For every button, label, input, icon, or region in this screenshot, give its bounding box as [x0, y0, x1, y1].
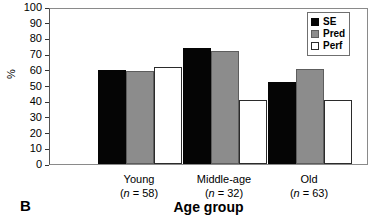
y-axis-tick-label: 90 [30, 17, 42, 29]
legend-swatch-se-icon [311, 18, 319, 26]
x-axis-group-label: Old(n = 63) [249, 172, 369, 200]
legend-swatch-perf-icon [311, 42, 319, 50]
x-axis-title: Age group [49, 199, 368, 215]
y-axis-tick-label: 40 [30, 95, 42, 107]
bar-pred-old [296, 69, 324, 164]
y-axis-tick-mark [45, 165, 49, 166]
y-axis-tick-label: 100 [24, 1, 42, 13]
y-axis-tick-label: 20 [30, 127, 42, 139]
y-axis-tick-mark [45, 8, 49, 9]
bar-se-old [268, 82, 296, 164]
y-axis-tick-label: 50 [30, 80, 42, 92]
bar-se-young [98, 70, 126, 164]
y-axis-tick-label: 10 [30, 142, 42, 154]
y-axis-tick-mark [45, 117, 49, 118]
legend-label-se: SE [323, 17, 336, 27]
bar-pred-young [126, 71, 154, 164]
y-axis-label: % [5, 65, 17, 83]
bar-perf-old [324, 100, 352, 164]
x-axis-group-name: Old [249, 172, 369, 186]
legend-item: Perf [311, 40, 345, 51]
x-axis-group-count: (n = 63) [249, 186, 369, 200]
bar-se-middle-age [183, 48, 211, 164]
y-axis-tick-mark [45, 55, 49, 56]
y-axis-tick-mark [45, 133, 49, 134]
legend-item: Pred [311, 28, 345, 39]
legend-label-pred: Pred [323, 29, 345, 39]
bar-pred-middle-age [211, 51, 239, 164]
panel-letter: B [20, 197, 31, 214]
y-axis-tick-label: 0 [36, 158, 42, 170]
y-axis-tick-label: 70 [30, 48, 42, 60]
legend-item: SE [311, 16, 345, 27]
y-axis-tick-mark [45, 86, 49, 87]
legend-swatch-pred-icon [311, 30, 319, 38]
y-axis-tick-mark [45, 39, 49, 40]
y-axis-tick-label: 60 [30, 64, 42, 76]
y-axis-tick-mark [45, 102, 49, 103]
bar-perf-middle-age [239, 100, 267, 164]
y-axis-tick-mark [45, 23, 49, 24]
legend-label-perf: Perf [323, 41, 342, 51]
y-axis-tick-label: 30 [30, 111, 42, 123]
y-axis-tick-mark [45, 70, 49, 71]
y-axis-tick-mark [45, 149, 49, 150]
figure-panel-b: % 0102030405060708090100 Young(n = 58)Mi… [0, 0, 376, 220]
y-axis-tick-label: 80 [30, 32, 42, 44]
legend: SE Pred Perf [307, 12, 350, 56]
bar-perf-young [154, 67, 182, 164]
